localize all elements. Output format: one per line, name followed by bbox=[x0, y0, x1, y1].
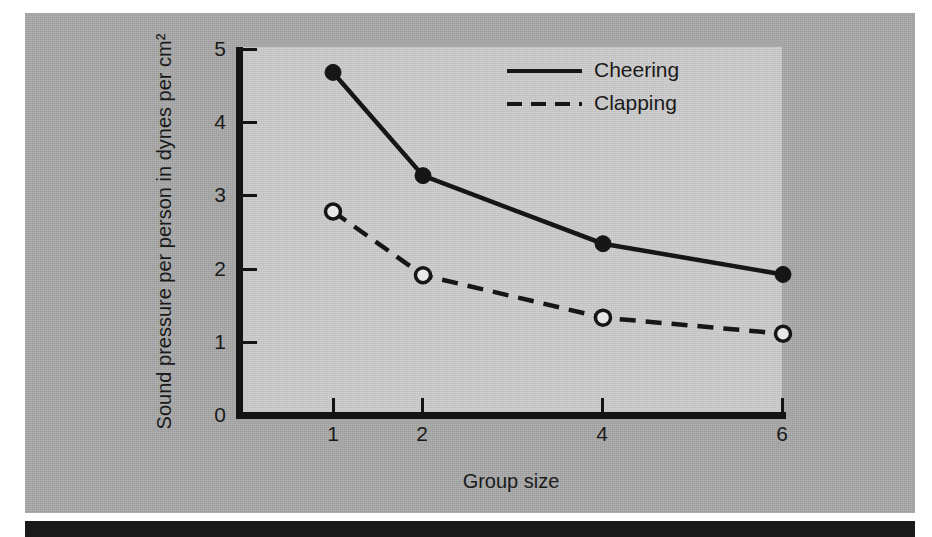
legend-entry-cheering: Cheering bbox=[507, 57, 737, 90]
x-tick-label-1: 1 bbox=[313, 423, 353, 444]
y-tick-label-2: 2 bbox=[198, 258, 226, 279]
bottom-decoration-bar bbox=[25, 521, 915, 537]
y-tick-5 bbox=[243, 48, 257, 51]
y-tick-label-0: 0 bbox=[198, 404, 226, 425]
y-axis-line bbox=[236, 47, 243, 416]
y-tick-label-5: 5 bbox=[198, 38, 226, 59]
x-axis-line bbox=[236, 412, 786, 419]
x-tick-2 bbox=[421, 398, 424, 413]
legend-label-clapping: Clapping bbox=[594, 90, 677, 115]
y-tick-2 bbox=[243, 268, 257, 271]
y-axis-title-text: Sound pressure per person in dynes per c… bbox=[154, 33, 177, 429]
x-tick-label-2: 2 bbox=[402, 423, 442, 444]
y-tick-4 bbox=[243, 121, 257, 124]
figure-container: 5 4 3 2 1 0 1 2 4 6 Sound pressure per p… bbox=[0, 0, 932, 537]
y-tick-label-1: 1 bbox=[198, 331, 226, 352]
y-tick-label-4: 4 bbox=[198, 111, 226, 132]
x-axis-title: Group size bbox=[240, 470, 782, 493]
legend-line-solid-icon bbox=[507, 69, 582, 73]
y-axis-title: Sound pressure per person in dynes per c… bbox=[150, 47, 180, 415]
legend: Cheering Clapping bbox=[507, 57, 737, 123]
y-tick-1 bbox=[243, 341, 257, 344]
y-tick-label-3: 3 bbox=[198, 184, 226, 205]
x-tick-6 bbox=[781, 398, 784, 413]
x-tick-label-4: 4 bbox=[582, 423, 622, 444]
legend-entry-clapping: Clapping bbox=[507, 90, 737, 123]
x-tick-label-6: 6 bbox=[762, 423, 802, 444]
legend-label-cheering: Cheering bbox=[594, 57, 679, 82]
legend-line-dashed-icon bbox=[507, 102, 582, 106]
x-tick-4 bbox=[601, 398, 604, 413]
y-tick-3 bbox=[243, 194, 257, 197]
x-tick-1 bbox=[332, 398, 335, 413]
